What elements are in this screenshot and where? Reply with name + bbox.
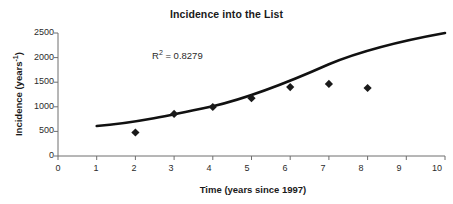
data-points: [131, 80, 371, 137]
x-axis-ticks: [58, 156, 445, 160]
data-point: [131, 128, 139, 136]
data-point: [364, 84, 372, 92]
data-point: [325, 80, 333, 88]
chart-container: Incidence into the List Incidence (years…: [0, 0, 453, 204]
y-axis-ticks: [54, 33, 58, 156]
data-point: [170, 110, 178, 118]
trendline: [97, 33, 445, 126]
data-point: [286, 83, 294, 91]
data-point: [209, 103, 217, 111]
plot-area: [0, 0, 453, 204]
